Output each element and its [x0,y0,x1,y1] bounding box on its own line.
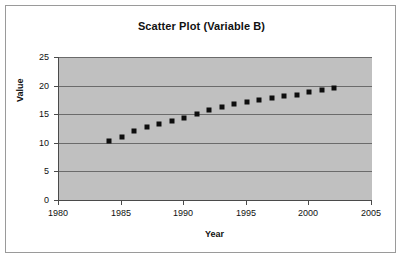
data-point [182,115,187,120]
y-tick-mark [54,171,58,172]
chart-frame: Scatter Plot (Variable B) Value Year 051… [5,5,396,253]
data-point [219,105,224,110]
data-point [232,102,237,107]
data-point [257,97,262,102]
data-point [307,90,312,95]
x-axis-title: Year [58,229,371,239]
data-point [207,108,212,113]
y-tick-label: 20 [27,82,49,91]
data-point [119,134,124,139]
x-tick-label: 1985 [101,209,141,218]
data-point [294,92,299,97]
x-tick-mark [183,201,184,205]
data-point [282,94,287,99]
gridline-y-20 [59,86,372,87]
x-tick-mark [246,201,247,205]
x-tick-mark [58,201,59,205]
x-tick-label: 2005 [351,209,391,218]
y-tick-label: 10 [27,139,49,148]
chart-title: Scatter Plot (Variable B) [6,20,396,32]
y-tick-mark [54,57,58,58]
x-tick-label: 2000 [288,209,328,218]
y-tick-mark [54,86,58,87]
x-tick-label: 1990 [163,209,203,218]
y-tick-label: 25 [27,53,49,62]
y-tick-label: 5 [27,167,49,176]
x-tick-mark [121,201,122,205]
gridline-y-15 [59,114,372,115]
x-tick-mark [308,201,309,205]
gridline-y-5 [59,171,372,172]
y-tick-mark [54,114,58,115]
plot-area [58,57,372,201]
y-tick-mark [54,143,58,144]
x-tick-mark [371,201,372,205]
data-point [107,139,112,144]
gridline-y-25 [59,57,372,58]
data-point [319,88,324,93]
data-point [169,119,174,124]
data-point [269,96,274,101]
data-point [332,85,337,90]
data-point [194,111,199,116]
y-axis-title: Value [15,78,25,102]
y-tick-label: 0 [27,196,49,205]
x-tick-label: 1980 [38,209,78,218]
data-point [244,100,249,105]
data-point [132,129,137,134]
data-point [157,121,162,126]
y-tick-label: 15 [27,110,49,119]
plot-inner [59,57,372,200]
x-tick-label: 1995 [226,209,266,218]
data-point [144,125,149,130]
